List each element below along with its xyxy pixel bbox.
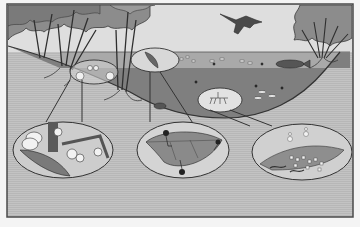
inset-leaf-invertebrates (137, 122, 229, 178)
benthic-creature (154, 103, 166, 109)
wetland-ecosystem-diagram (0, 0, 360, 227)
inset-detritus-microbes (252, 124, 352, 180)
inset-fallen-flowers (13, 122, 113, 178)
